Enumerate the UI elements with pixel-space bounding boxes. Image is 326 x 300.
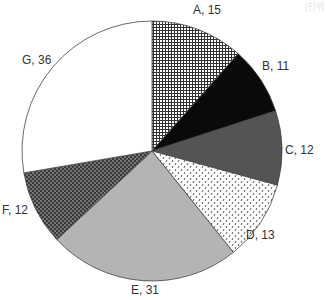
- slice-label-a: A, 15: [193, 3, 221, 17]
- pie-slice-g: [22, 21, 152, 173]
- slice-label-e: E, 31: [131, 283, 159, 297]
- slice-label-d: D, 13: [246, 228, 275, 242]
- slice-label-f: F, 12: [2, 203, 28, 217]
- pie-chart: [0, 0, 326, 300]
- pie-slices: [22, 21, 282, 281]
- slice-label-c: C, 12: [285, 143, 314, 157]
- slice-label-g: G, 36: [22, 53, 51, 67]
- slice-label-b: B, 11: [262, 59, 289, 73]
